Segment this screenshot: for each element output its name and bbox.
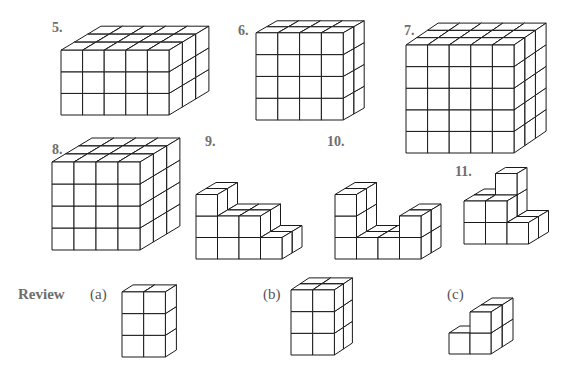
cube-figure-6: [256, 21, 364, 120]
cube-figure-11: [464, 168, 549, 245]
cube-figures: [0, 0, 566, 378]
review-figure-b: [291, 278, 352, 355]
review-figure-c: [449, 298, 513, 354]
cube-figure-8: [52, 138, 180, 250]
cube-figure-10: [335, 183, 441, 260]
review-figure-a: [122, 285, 176, 357]
cube-figure-7: [406, 23, 546, 153]
cube-figure-9: [196, 183, 302, 260]
cube-figure-5: [61, 26, 209, 115]
